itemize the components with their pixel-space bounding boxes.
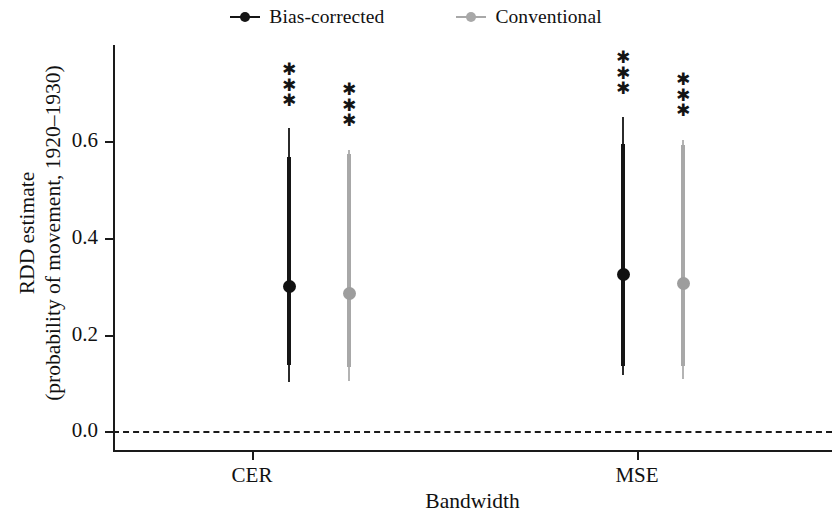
point-marker-cer-conventional: [343, 287, 356, 300]
zero-reference-line: [113, 431, 832, 433]
y-tick-0.0: [105, 431, 113, 433]
x-tick-mse: [637, 451, 639, 460]
significance-stars-cer-bias-corrected: ✱✱✱: [269, 62, 309, 109]
ci-inner-mse-bias-corrected: [621, 144, 626, 366]
point-marker-cer-bias-corrected: [283, 280, 296, 293]
significance-stars-mse-conventional: ✱✱✱: [663, 72, 703, 119]
plot-area: 0.6 0.4 0.2 0.0 CER MSE ✱✱✱ ✱✱✱: [0, 0, 832, 517]
point-marker-mse-bias-corrected: [617, 268, 630, 281]
x-axis-line: [113, 450, 832, 452]
significance-stars-cer-conventional: ✱✱✱: [329, 82, 369, 129]
y-axis-line: [113, 45, 115, 451]
y-axis-title: RDD estimate (probability of movement, 1…: [14, 13, 66, 453]
rdd-estimate-chart: Bias-corrected Conventional 0.6 0.4 0.2 …: [0, 0, 832, 517]
y-tick-0.6: [105, 141, 113, 143]
ci-inner-mse-conventional: [681, 145, 686, 366]
x-axis-title: Bandwidth: [113, 489, 832, 513]
y-axis-title-line1: RDD estimate: [14, 13, 40, 453]
point-marker-mse-conventional: [677, 277, 690, 290]
x-tick-cer: [252, 451, 254, 460]
y-axis-title-line2: (probability of movement, 1920–1930): [40, 13, 66, 453]
significance-stars-mse-bias-corrected: ✱✱✱: [603, 50, 643, 97]
x-tick-label-mse: MSE: [567, 464, 707, 486]
y-tick-0.4: [105, 238, 113, 240]
x-tick-label-cer: CER: [182, 464, 322, 486]
y-tick-0.2: [105, 335, 113, 337]
ci-inner-cer-bias-corrected: [287, 157, 292, 365]
ci-inner-cer-conventional: [347, 154, 352, 367]
